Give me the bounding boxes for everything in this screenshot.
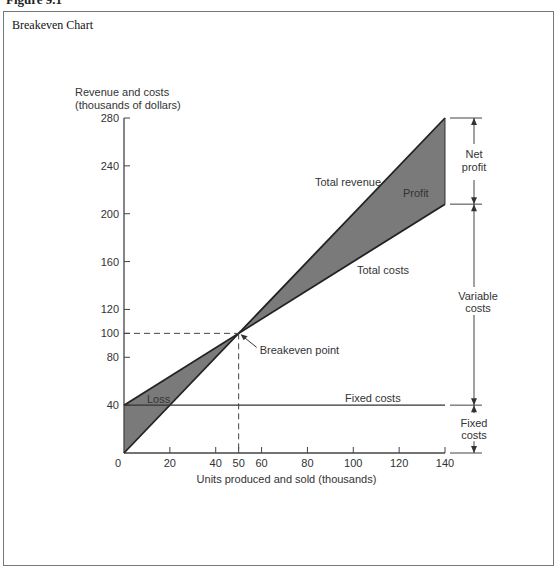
y-tick-label: 80 <box>107 351 119 363</box>
profit-label: Profit <box>403 187 429 199</box>
y-tick-label: 200 <box>101 208 119 220</box>
variable-costs-arrow-up <box>471 204 477 211</box>
fixed-costs-label: Fixed costs <box>345 392 401 404</box>
net-profit-arrow-up <box>471 118 477 125</box>
loss-label: Loss <box>147 393 171 405</box>
y-tick-label: 40 <box>107 399 119 411</box>
y-axis-label: Revenue and costs <box>75 86 170 98</box>
x-tick-label: 80 <box>301 457 313 469</box>
y-tick-label: 100 <box>101 327 119 339</box>
variable-costs-label-line2: costs <box>465 302 491 314</box>
total-revenue-label: Total revenue <box>315 176 381 188</box>
x-tick-label: 100 <box>344 457 362 469</box>
x-tick-label: 40 <box>210 457 222 469</box>
x-tick-label: 60 <box>255 457 267 469</box>
net-profit-label-line2: profit <box>462 161 486 173</box>
total-costs-label: Total costs <box>357 264 409 276</box>
net-profit-label-line1: Net <box>465 148 482 160</box>
breakeven-chart: 4080100120160200240280020405060801001201… <box>0 0 560 572</box>
breakeven-label: Breakeven point <box>260 344 340 356</box>
y-axis-label-units: (thousands of dollars) <box>75 99 181 111</box>
x-axis-label: Units produced and sold (thousands) <box>197 473 377 485</box>
total-costs-line <box>124 204 445 405</box>
variable-costs-arrow-down <box>471 398 477 405</box>
x-tick-label: 140 <box>436 457 454 469</box>
y-tick-label: 240 <box>101 160 119 172</box>
x-tick-label: 50 <box>233 457 245 469</box>
x-tick-label: 120 <box>390 457 408 469</box>
net-profit-arrow-down <box>471 197 477 204</box>
fixed-costs-arrow-up <box>471 405 477 412</box>
y-tick-label: 280 <box>101 112 119 124</box>
y-tick-label: 160 <box>101 256 119 268</box>
x-tick-label: 0 <box>115 457 121 469</box>
fixed-costs-dim-label-line2: costs <box>461 429 487 441</box>
x-tick-label: 20 <box>164 457 176 469</box>
fixed-costs-dim-label-line1: Fixed <box>461 417 488 429</box>
y-tick-label: 120 <box>101 303 119 315</box>
variable-costs-label-line1: Variable <box>458 290 498 302</box>
fixed-costs-arrow-down <box>471 446 477 453</box>
